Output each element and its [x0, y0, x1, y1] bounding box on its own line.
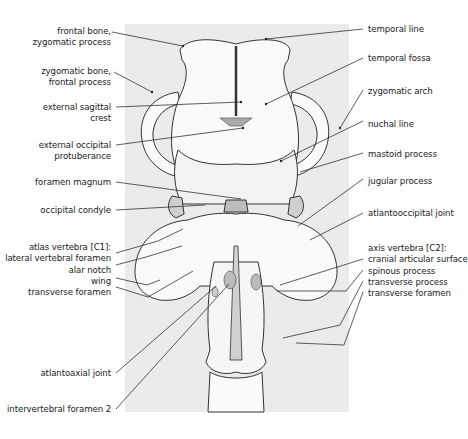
label-nuchal-line: nuchal line: [368, 119, 414, 130]
label-line: frontal bone,: [33, 26, 112, 37]
label-line: atlantooccipital joint: [368, 208, 454, 219]
label-line: temporal fossa: [368, 53, 431, 64]
label-mastoid-process: mastoid process: [368, 149, 437, 160]
label-line: cranial articular surface: [368, 254, 468, 265]
label-line: intervertebral foramen 2: [7, 404, 111, 415]
label-temporal-fossa: temporal fossa: [368, 53, 431, 64]
label-jugular-process: jugular process: [368, 176, 432, 187]
label-zygomatic-arch: zygomatic arch: [368, 86, 433, 97]
label-line: mastoid process: [368, 149, 437, 160]
foramen-magnum-shape: [224, 200, 248, 212]
label-line: transverse process: [368, 277, 468, 288]
label-line: alar notch: [5, 265, 111, 276]
label-occipital-condyle: occipital condyle: [40, 205, 111, 216]
label-line: atlas vertebra [C1]:: [5, 242, 111, 253]
label-axis-vertebra-group: axis vertebra [C2]: cranial articular su…: [368, 243, 468, 299]
label-line: spinous process: [368, 266, 468, 277]
label-line: protuberance: [39, 151, 111, 162]
label-line: nuchal line: [368, 119, 414, 130]
label-line: atlantoaxial joint: [40, 368, 111, 379]
label-line: zygomatic bone,: [41, 66, 111, 77]
label-zygomatic-bone-frontal-process: zygomatic bone, frontal process: [41, 66, 111, 88]
label-line: transverse foramen: [368, 288, 468, 299]
label-line: temporal line: [368, 24, 424, 35]
label-line: wing: [5, 276, 111, 287]
label-line: external occipital: [39, 140, 111, 151]
label-foramen-magnum: foramen magnum: [35, 177, 111, 188]
label-line: foramen magnum: [35, 177, 111, 188]
label-line: occipital condyle: [40, 205, 111, 216]
third-cervical-vertebra: [208, 372, 264, 412]
label-line: lateral vertebral foramen: [5, 253, 111, 264]
label-external-occipital-protuberance: external occipital protuberance: [39, 140, 111, 162]
label-line: frontal process: [41, 77, 111, 88]
label-temporal-line: temporal line: [368, 24, 424, 35]
label-atlantooccipital-joint: atlantooccipital joint: [368, 208, 454, 219]
label-line: zygomatic process: [33, 37, 112, 48]
label-line: transverse foramen: [5, 287, 111, 298]
label-atlantoaxial-joint: atlantoaxial joint: [40, 368, 111, 379]
label-external-sagittal-crest: external sagittal crest: [43, 102, 111, 124]
label-line: axis vertebra [C2]:: [368, 243, 468, 254]
right-occipital-condyle: [288, 196, 303, 218]
label-line: jugular process: [368, 176, 432, 187]
label-atlas-vertebra-group: atlas vertebra [C1]: lateral vertebral f…: [5, 242, 111, 298]
label-line: zygomatic arch: [368, 86, 433, 97]
label-line: external sagittal: [43, 102, 111, 113]
label-frontal-bone-zygomatic-process: frontal bone, zygomatic process: [33, 26, 112, 48]
label-intervertebral-foramen-2: intervertebral foramen 2: [7, 404, 111, 415]
label-line: crest: [43, 113, 111, 124]
